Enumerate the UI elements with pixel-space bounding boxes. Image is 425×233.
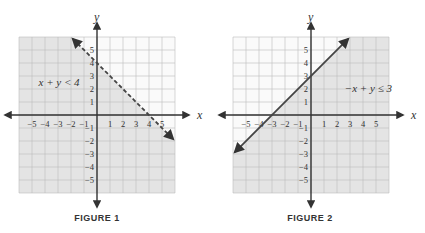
x-tick-label: −3 (53, 119, 62, 129)
x-axis-label: x (196, 108, 203, 122)
y-tick-label: 1 (304, 97, 308, 107)
y-tick-label: −2 (299, 136, 308, 146)
y-tick-label: −4 (299, 162, 309, 172)
y-tick-label: 2 (304, 84, 308, 94)
y-tick-label: 5 (304, 45, 308, 55)
y-axis-label: y (307, 10, 314, 24)
y-tick-label: −1 (85, 123, 94, 133)
inequality-label: x + y < 4 (38, 76, 81, 88)
x-tick-label: −5 (27, 119, 36, 129)
x-tick-label: −2 (280, 119, 289, 129)
x-tick-label: 2 (335, 119, 339, 129)
x-tick-label: 1 (108, 119, 112, 129)
y-tick-label: −3 (299, 149, 308, 159)
y-tick-label: 5 (90, 45, 94, 55)
x-tick-label: −2 (66, 119, 75, 129)
x-tick-label: 3 (348, 119, 352, 129)
y-tick-label: −2 (85, 136, 94, 146)
figure-2: xy−5−4−3−2−112345−5−4−3−2−112345−x + y ≤… (219, 0, 417, 207)
y-tick-label: 2 (90, 84, 94, 94)
y-tick-label: −5 (299, 175, 308, 185)
figures-canvas: xy−5−4−3−2−112345−5−4−3−2−112345x + y < … (0, 0, 425, 233)
y-tick-label: −5 (85, 175, 94, 185)
y-tick-label: −1 (299, 123, 308, 133)
y-tick-label: 3 (90, 71, 94, 81)
x-tick-label: −3 (267, 119, 276, 129)
inequality-label: −x + y ≤ 3 (345, 82, 393, 94)
x-tick-label: 2 (121, 119, 125, 129)
figure-2-caption: FIGURE 2 (287, 213, 333, 223)
x-tick-label: 3 (134, 119, 138, 129)
figure-1: xy−5−4−3−2−112345−5−4−3−2−112345x + y < … (5, 0, 203, 207)
x-tick-label: 5 (374, 119, 378, 129)
y-axis-label: y (93, 10, 100, 24)
figure-1-caption: FIGURE 1 (74, 213, 120, 223)
x-tick-label: 1 (322, 119, 326, 129)
x-tick-label: −5 (241, 119, 250, 129)
y-tick-label: 1 (90, 97, 94, 107)
y-tick-label: −3 (85, 149, 94, 159)
y-tick-label: −4 (85, 162, 95, 172)
x-axis-label: x (410, 108, 417, 122)
x-tick-label: −4 (40, 119, 50, 129)
